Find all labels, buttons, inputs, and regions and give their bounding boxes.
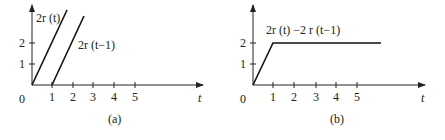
figure: 0 1 2 3 4 5 1 2 t 2r (t) 2r (t−1) (a) 0 …: [0, 0, 445, 140]
x-tick-label: 5: [132, 90, 138, 104]
panel-a: 0 1 2 3 4 5 1 2 t 2r (t) 2r (t−1) (a): [19, 5, 203, 126]
x-tick-label: 2: [70, 90, 76, 104]
caption-a: (a): [108, 112, 121, 126]
y-tick-label: 1: [19, 57, 25, 71]
curve-label: 2r (t): [36, 11, 60, 25]
y-tick-label: 2: [240, 36, 246, 50]
y-tick-label: 2: [19, 36, 25, 50]
x-axis-label: t: [421, 91, 425, 105]
x-tick-label: 2: [291, 90, 297, 104]
y-tick-label: 1: [240, 57, 246, 71]
x-tick-label: 5: [354, 90, 360, 104]
origin-label: 0: [19, 92, 25, 106]
curve-label: 2r (t) −2 r (t−1): [266, 23, 340, 37]
curve-label: 2r (t−1): [78, 38, 115, 52]
x-tick-label: 3: [90, 90, 96, 104]
x-tick-label: 1: [270, 90, 276, 104]
x-axis-label: t: [198, 91, 202, 105]
x-tick-label: 1: [49, 90, 55, 104]
x-tick-label: 3: [313, 90, 319, 104]
panel-b: 0 1 2 3 4 5 1 2 t 2r (t) −2 r (t−1) (b): [240, 5, 425, 126]
origin-label: 0: [240, 92, 246, 106]
caption-b: (b): [330, 112, 344, 126]
x-tick-label: 4: [333, 90, 339, 104]
curve-2r-t-minus-2r-t-minus-1: [253, 43, 381, 85]
x-tick-label: 4: [111, 90, 117, 104]
